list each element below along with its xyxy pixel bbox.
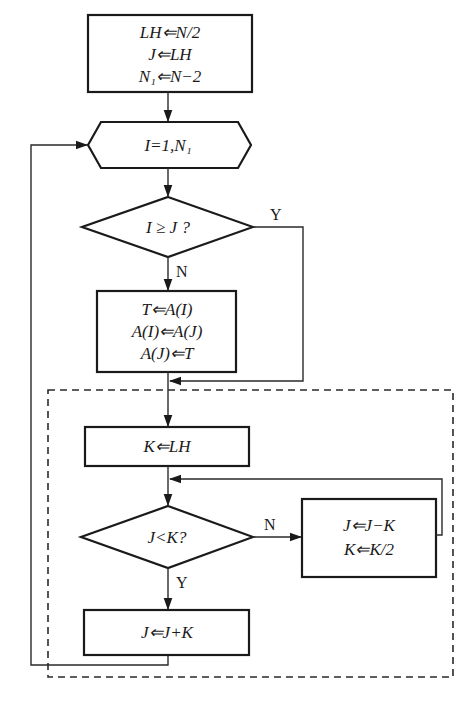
swap-line-1: T⇐A(I)	[142, 300, 193, 319]
init-line-1: LH⇐N/2	[139, 23, 201, 42]
swap-box: T⇐A(I) A(I)⇐A(J) A(J)⇐T	[97, 291, 236, 372]
loop-hexagon: I=1,N₁	[88, 122, 251, 168]
init-box: LH⇐N/2 J⇐LH N₁⇐N−2	[88, 15, 252, 92]
decision-1-yes-label: Y	[270, 206, 282, 223]
decision-2-yes-label: Y	[176, 574, 188, 591]
swap-line-2: A(I)⇐A(J)	[131, 322, 203, 341]
flowchart: LH⇐N/2 J⇐LH N₁⇐N−2 I=1,N₁ I ≥ J ? Y N T⇐…	[0, 0, 468, 707]
decision-1-label: I ≥ J ?	[145, 218, 190, 237]
k-box-label: K⇐LH	[142, 437, 192, 456]
final-box-label: J⇐J+K	[141, 623, 195, 642]
update-line-2: K⇐K/2	[343, 540, 394, 559]
update-line-1: J⇐J−K	[343, 516, 397, 535]
init-line-3: N₁⇐N−2	[138, 67, 202, 86]
update-box: J⇐J−K K⇐K/2	[302, 499, 436, 577]
swap-line-3: A(J)⇐T	[140, 344, 195, 363]
k-box: K⇐LH	[85, 427, 249, 466]
decision-1: I ≥ J ?	[82, 197, 253, 257]
final-box: J⇐J+K	[84, 610, 249, 655]
decision-1-no-label: N	[176, 263, 188, 280]
decision-2-label: J<K?	[148, 528, 187, 547]
loop-label: I=1,N₁	[143, 136, 191, 155]
init-line-2: J⇐LH	[148, 45, 193, 64]
decision-2: J<K?	[81, 506, 253, 568]
decision-2-no-label: N	[264, 516, 276, 533]
